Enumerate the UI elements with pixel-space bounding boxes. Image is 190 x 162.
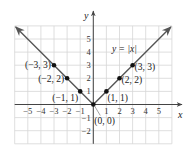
point-label: (−3, 3) [25,60,51,71]
x-tick-label: −4 [36,106,46,116]
y-tick-label: 2 [87,73,91,83]
y-tick-label: 1 [87,86,91,96]
x-axis-label: x [177,109,183,120]
y-tick-label: 5 [87,34,91,44]
data-point [52,63,57,68]
data-point [65,76,70,81]
point-label: (−1, 1) [52,93,78,104]
y-tick-label: −1 [82,113,91,123]
x-tick-label: 3 [130,106,134,116]
x-tick-label: 5 [157,106,161,116]
function-label: y = |x| [111,44,137,54]
x-tick-label: −3 [49,106,58,116]
y-tick-label: 4 [87,47,92,57]
x-tick-label: 1 [104,106,108,116]
x-tick-label: 4 [144,106,149,116]
point-label: (0, 0) [94,116,115,127]
y-tick-label: −2 [82,126,91,136]
origin-leader-line [94,106,100,116]
absolute-value-graph: −5−4−3−2−112345−2−112345 (−3, 3)(−2, 2)(… [0,0,190,162]
point-label: (3, 3) [135,62,156,73]
point-label: (−2, 2) [38,74,64,85]
point-label: (1, 1) [107,93,128,104]
point-label: (2, 2) [122,75,143,86]
x-tick-label: −2 [63,106,72,116]
x-tick-label: −5 [23,106,32,116]
y-axis-label: y [83,10,89,21]
data-point [78,89,83,94]
y-tick-label: 3 [87,60,91,70]
x-tick-label: 2 [117,106,121,116]
